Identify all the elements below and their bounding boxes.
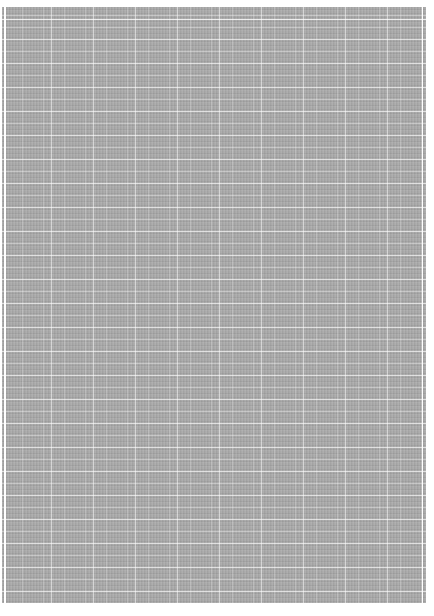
- right-edge-line: [422, 7, 423, 603]
- grid-paper-sheet: [2, 7, 426, 603]
- major-vertical-grid-lines: [2, 7, 426, 603]
- left-edge-line: [4, 7, 6, 603]
- top-edge-line: [2, 19, 426, 20]
